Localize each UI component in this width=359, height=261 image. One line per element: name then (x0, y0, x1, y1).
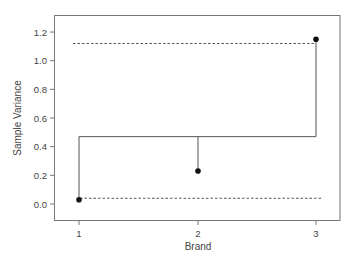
y-axis: 0.00.20.40.60.81.01.2 (34, 27, 55, 210)
y-tick-label: 0.6 (34, 113, 47, 124)
x-axis: 123 (76, 221, 318, 240)
y-tick-label: 0.4 (34, 141, 47, 152)
x-axis-title: Brand (185, 241, 212, 252)
x-tick-label: 2 (195, 228, 200, 239)
y-tick-label: 1.0 (34, 55, 47, 66)
y-tick-label: 1.2 (34, 27, 47, 38)
variance-chart: 0.00.20.40.60.81.01.2 123 Brand Sample V… (0, 0, 359, 261)
data-points (76, 36, 319, 202)
x-tick-label: 3 (313, 228, 318, 239)
plot-frame (55, 16, 341, 221)
data-point (195, 168, 201, 174)
data-point (76, 197, 82, 203)
y-tick-label: 0.2 (34, 170, 47, 181)
y-tick-label: 0.0 (34, 199, 47, 210)
y-tick-label: 0.8 (34, 84, 47, 95)
y-axis-title: Sample Variance (12, 80, 23, 156)
x-tick-label: 1 (76, 228, 81, 239)
data-point (313, 36, 319, 42)
center-line-and-stems (79, 39, 316, 199)
control-limits (73, 44, 322, 199)
